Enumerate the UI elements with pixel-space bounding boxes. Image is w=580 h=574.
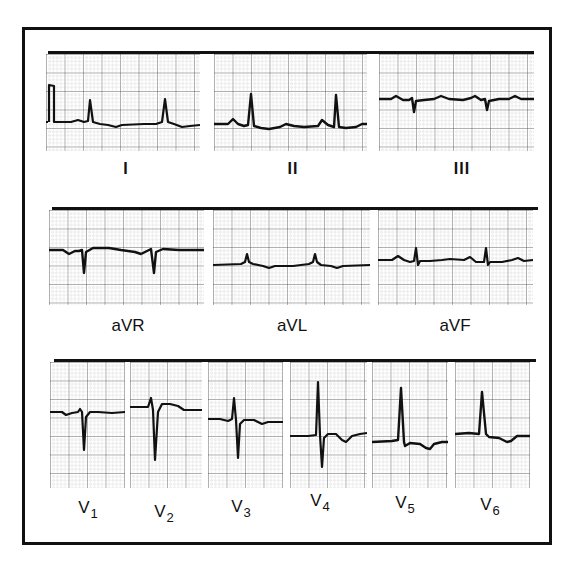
ecg-strip-lead-aVR: [49, 210, 204, 305]
ecg-tracing-lead-V6: [455, 362, 530, 488]
ecg-tracing-lead-I: [46, 54, 200, 151]
ecg-tracing-lead-V4: [290, 362, 367, 488]
ecg-strip-lead-V6: [455, 362, 530, 488]
lead-label-V4: V4: [310, 491, 330, 514]
ecg-tracing-lead-aVR: [49, 210, 204, 305]
ecg-tracing-lead-V3: [208, 362, 283, 488]
ecg-tracing-lead-II: [214, 54, 367, 151]
ecg-tracing-lead-V2: [130, 362, 202, 488]
ecg-tracing-lead-III: [379, 54, 534, 151]
lead-label-V6: V6: [480, 495, 500, 518]
ecg-tracing-lead-aVL: [213, 210, 370, 305]
ecg-strip-lead-V1: [50, 362, 125, 488]
lead-label-aVF: aVF: [439, 316, 470, 336]
lead-label-I: I: [123, 160, 128, 178]
lead-label-III: III: [454, 160, 470, 178]
ecg-strip-lead-II: [214, 54, 367, 151]
lead-label-II: II: [288, 160, 299, 178]
ecg-strip-lead-V5: [372, 362, 448, 488]
lead-label-V3: V3: [231, 497, 251, 520]
lead-label-V5: V5: [395, 493, 415, 516]
ecg-strip-lead-V2: [130, 362, 202, 488]
ecg-strip-lead-I: [46, 54, 200, 151]
ecg-strip-lead-V4: [290, 362, 367, 488]
ecg-tracing-lead-aVF: [378, 210, 533, 305]
ecg-tracing-lead-V5: [372, 362, 448, 488]
lead-label-aVL: aVL: [277, 316, 307, 336]
ecg-strip-lead-aVL: [213, 210, 370, 305]
ecg-strip-lead-V3: [208, 362, 283, 488]
lead-label-V2: V2: [154, 502, 174, 525]
lead-label-aVR: aVR: [111, 316, 144, 336]
ecg-strip-lead-III: [379, 54, 534, 151]
ecg-strip-lead-aVF: [378, 210, 533, 305]
ecg-tracing-lead-V1: [50, 362, 125, 488]
lead-label-V1: V1: [78, 498, 98, 521]
